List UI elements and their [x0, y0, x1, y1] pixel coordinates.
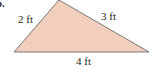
- triangle-diagram: b. 2 ft 3 ft 4 ft: [0, 0, 149, 67]
- side-right-label: 3 ft: [101, 10, 116, 22]
- triangle-figure: b. 2 ft 3 ft 4 ft: [0, 0, 149, 67]
- problem-label: b.: [0, 0, 5, 9]
- triangle-shape: [14, 0, 149, 52]
- side-bottom-label: 4 ft: [76, 55, 91, 67]
- side-left-label: 2 ft: [18, 13, 33, 25]
